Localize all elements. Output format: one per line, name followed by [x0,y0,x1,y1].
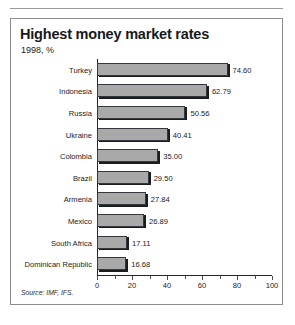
x-axis-major-tick [202,276,203,280]
chart-subtitle: 1998, % [21,45,54,55]
bar[interactable] [97,63,228,76]
bar-value-label: 29.50 [154,173,173,182]
bar[interactable] [97,128,168,141]
x-axis-major-tick [167,276,168,280]
bar-value-label: 27.84 [151,195,170,204]
bar-row: Indonesia62.79 [97,81,272,103]
category-label: South Africa [51,238,92,247]
bar[interactable] [97,192,146,205]
category-label: Russia [69,108,92,117]
chart-title: Highest money market rates [20,26,209,42]
x-axis-tick-label: 20 [128,281,136,290]
category-label: Brazil [73,173,92,182]
plot-area: Turkey74.60Indonesia62.79Russia50.56Ukra… [97,59,272,275]
x-axis-minor-tick [220,276,221,279]
bar-row: Dominican Republic16.68 [97,253,272,275]
chart-figure-container: Highest money market rates 1998, % Turke… [10,18,283,305]
bar[interactable] [97,214,144,227]
x-axis-major-tick [237,276,238,280]
x-axis-major-tick [97,276,98,280]
bar[interactable] [97,171,149,184]
bar[interactable] [97,106,185,119]
bar-value-label: 35.00 [163,152,182,161]
bar-value-label: 62.79 [212,87,231,96]
bar[interactable] [97,236,127,249]
category-label: Armenia [64,195,92,204]
x-axis-major-tick [132,276,133,280]
x-axis-tick-label: 80 [233,281,241,290]
x-axis-major-tick [272,276,273,280]
bar-row: Turkey74.60 [97,59,272,81]
bar-value-label: 40.41 [173,130,192,139]
bar[interactable] [97,84,207,97]
bar-row: Brazil29.50 [97,167,272,189]
bar-row: Ukraine40.41 [97,124,272,146]
category-label: Mexico [68,216,92,225]
category-label: Dominican Republic [24,260,92,269]
x-axis-tick-label: 40 [163,281,171,290]
bar-value-label: 16.68 [131,260,150,269]
bar-value-label: 74.60 [233,65,252,74]
bar-row: Mexico26.89 [97,210,272,232]
category-label: Colombia [60,152,92,161]
category-label: Ukraine [66,130,92,139]
x-axis-tick-label: 100 [266,281,279,290]
category-label: Turkey [69,65,92,74]
bar-row: Armenia27.84 [97,189,272,211]
x-axis-minor-tick [255,276,256,279]
x-axis-minor-tick [185,276,186,279]
x-axis-minor-tick [150,276,151,279]
source-note: Source: IMF, IFS. [21,289,73,296]
bar[interactable] [97,257,126,270]
top-divider-rule [10,8,283,9]
bar-row: Colombia35.00 [97,145,272,167]
x-axis-tick-label: 0 [95,281,99,290]
bar-row: South Africa17.11 [97,232,272,254]
bar[interactable] [97,149,158,162]
bar-value-label: 50.56 [190,108,209,117]
category-label: Indonesia [59,87,92,96]
x-axis-minor-tick [115,276,116,279]
bar-value-label: 17.11 [132,238,150,247]
bar-value-label: 26.89 [149,216,168,225]
bar-row: Russia50.56 [97,102,272,124]
x-axis-tick-label: 60 [198,281,206,290]
